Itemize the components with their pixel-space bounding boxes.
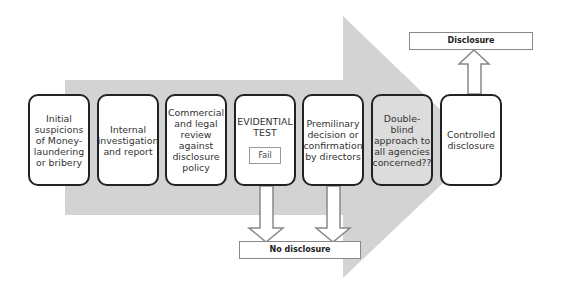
step-label: Double-blind approach to all agencies co… xyxy=(372,113,431,168)
step-controlled-disclosure: Controlled disclosure xyxy=(440,94,502,186)
step-preliminary-decision: Premilinary decision or confirmation by … xyxy=(302,94,364,186)
no-disclosure-outcome: No disclosure xyxy=(239,241,361,259)
disclosure-outcome: Disclosure xyxy=(409,32,533,50)
step-internal-investigation: Internal investigation and report xyxy=(97,94,159,186)
step-initial-suspicions: Initial suspicions of Money-laundering o… xyxy=(28,94,90,186)
step-evidential-test: EVIDENTIAL TEST Fail xyxy=(234,94,296,186)
step-label: Premilinary decision or confirmation by … xyxy=(303,118,362,162)
step-double-blind-approach: Double-blind approach to all agencies co… xyxy=(371,94,433,186)
step-label: Commercial and legal review against disc… xyxy=(168,107,224,173)
step-label: Internal investigation and report xyxy=(98,124,159,157)
fail-badge: Fail xyxy=(249,147,280,164)
step-commercial-legal-review: Commercial and legal review against disc… xyxy=(165,94,227,186)
step-label: EVIDENTIAL TEST xyxy=(237,116,292,138)
step-label: Controlled disclosure xyxy=(444,129,498,151)
step-label: Initial suspicions of Money-laundering o… xyxy=(32,113,86,168)
